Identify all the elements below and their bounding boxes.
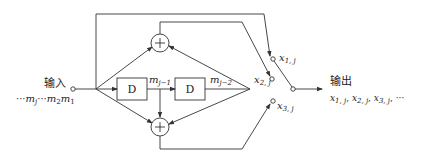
tap-label-x1: x1, j — [279, 53, 296, 65]
upper-adder-to-x2 — [160, 22, 270, 76]
switch-pivot-node — [291, 87, 295, 91]
tap-node-x3 — [271, 99, 275, 103]
input-label: 输入 — [44, 78, 66, 89]
input-node — [71, 87, 75, 91]
lower-adder-to-x3 — [160, 104, 270, 149]
tap-node-x1 — [271, 57, 275, 61]
output-label: 输出 — [330, 76, 352, 87]
label-m-j-2: mj−2 — [210, 75, 232, 87]
delay-block-2-label: D — [175, 83, 205, 96]
input-sequence: ···mj···m2m1 — [16, 94, 75, 106]
output-sequence: x1, j, x2, j, x3, j, ··· — [330, 94, 404, 105]
delay-block-1-label: D — [117, 83, 147, 96]
ellipsis: ··· — [16, 93, 26, 104]
label-m-j-1: mj−1 — [149, 75, 171, 87]
tap-label-x2: x2, j — [254, 75, 271, 87]
tap-label-x3: x3, j — [277, 101, 294, 113]
